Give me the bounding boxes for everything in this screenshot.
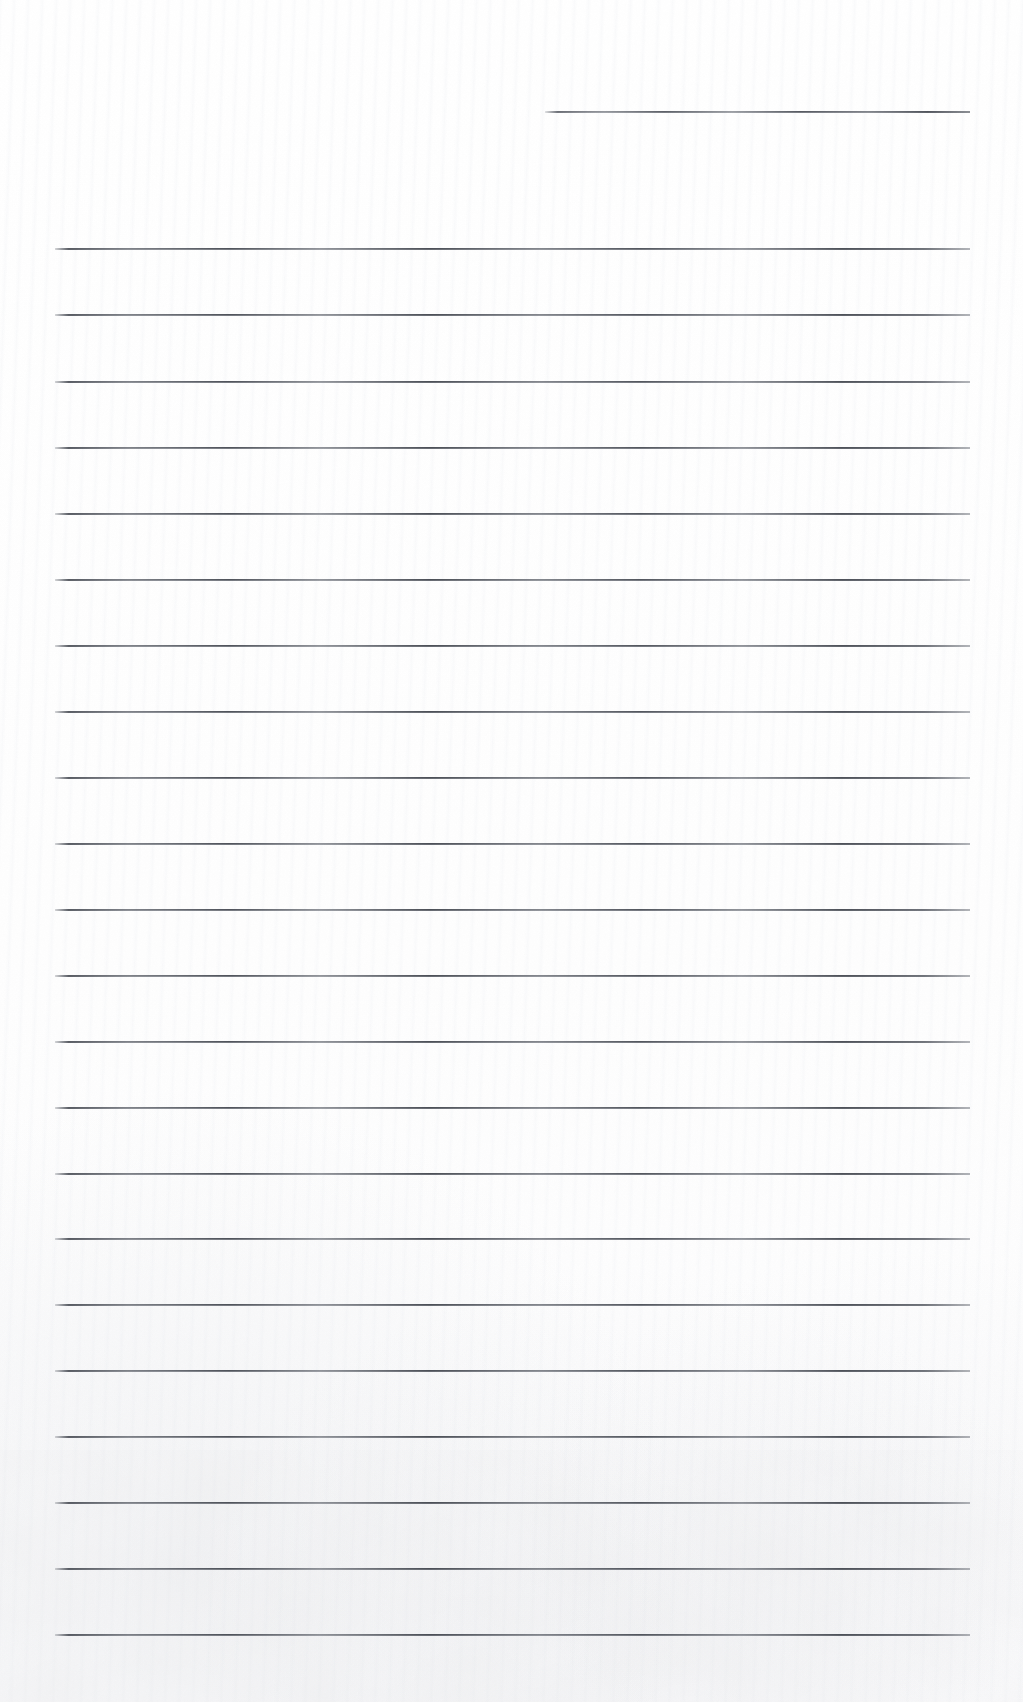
writing-rule-line	[55, 1173, 970, 1175]
writing-rule-line	[55, 1502, 970, 1504]
writing-rule-line	[55, 1304, 970, 1306]
writing-rule-line	[55, 909, 970, 911]
writing-rule-line	[55, 645, 970, 647]
writing-rule-line	[55, 975, 970, 977]
writing-rule-line	[55, 248, 970, 250]
writing-rule-line	[55, 314, 970, 316]
writing-rule-line	[55, 711, 970, 713]
writing-rule-line	[55, 1568, 970, 1570]
writing-rule-line	[55, 513, 970, 515]
writing-rule-line	[55, 1238, 970, 1240]
writing-rule-line	[55, 447, 970, 449]
document-page	[0, 0, 1023, 1702]
writing-rule-line	[55, 1041, 970, 1043]
writing-rule-line	[55, 1107, 970, 1109]
writing-rule-line	[55, 843, 970, 845]
paper-texture	[0, 0, 1023, 1702]
writing-rule-line	[55, 381, 970, 383]
header-rule-line	[545, 111, 970, 113]
writing-rule-line	[55, 1436, 970, 1438]
writing-rule-line	[55, 1370, 970, 1372]
writing-rule-line	[55, 1634, 970, 1636]
writing-rule-line	[55, 777, 970, 779]
writing-rule-line	[55, 579, 970, 581]
scan-noise-overlay	[0, 0, 1023, 1702]
